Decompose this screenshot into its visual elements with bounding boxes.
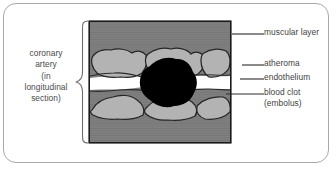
leader-lines	[226, 20, 266, 144]
label-endothelium-line-1: endothelium	[264, 72, 310, 83]
caption-line-3: (in	[14, 71, 78, 82]
coronary-artery-caption: coronary artery (in longitudinal section…	[14, 48, 78, 104]
label-muscular-layer: muscular layer	[264, 27, 319, 38]
label-muscular-layer-line-1: muscular layer	[264, 27, 319, 38]
caption-line-4: longitudinal	[14, 82, 78, 93]
label-blood-clot-line-2: (embolus)	[264, 98, 302, 109]
caption-line-5: section)	[14, 93, 78, 104]
label-blood-clot: blood clot (embolus)	[264, 87, 302, 110]
label-endothelium: endothelium	[264, 72, 310, 83]
left-curly-brace	[75, 20, 89, 144]
caption-line-1: coronary	[14, 48, 78, 59]
label-atheroma: atheroma	[264, 58, 300, 69]
figure-root: coronary artery (in longitudinal section…	[0, 0, 336, 169]
label-atheroma-line-1: atheroma	[264, 58, 300, 69]
label-blood-clot-line-1: blood clot	[264, 87, 302, 98]
caption-line-2: artery	[14, 59, 78, 70]
artery-cross-section	[88, 20, 232, 144]
